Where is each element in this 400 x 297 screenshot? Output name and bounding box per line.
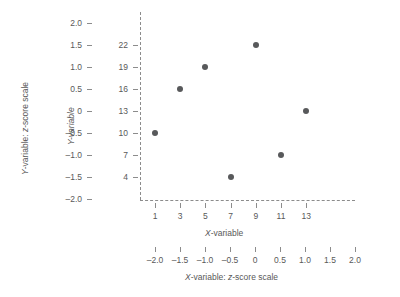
x-primary-tick [281, 203, 282, 208]
x-primary-tick [155, 203, 156, 208]
y-primary-tick [133, 133, 138, 134]
y-primary-tick-label: 16 [88, 84, 128, 94]
y-primary-tick-label: 13 [88, 106, 128, 116]
y-secondary-tick [87, 89, 92, 90]
y-secondary-tick [87, 45, 92, 46]
data-point [228, 174, 234, 180]
y-primary-tick [133, 45, 138, 46]
data-point [303, 108, 309, 114]
scatter-plot-figure: 221916131074 Y-variable 2.01.51.00.50–0.… [0, 0, 400, 297]
y-primary-tick-label: 19 [88, 62, 128, 72]
x-primary-tick [231, 203, 232, 208]
y-secondary-tick-label: –0.5 [42, 128, 82, 138]
x-primary-tick [256, 203, 257, 208]
y-secondary-tick [87, 155, 92, 156]
y-primary-tick-label: 4 [88, 172, 128, 182]
data-point [202, 64, 208, 70]
y-secondary-tick [87, 133, 92, 134]
x-secondary-tick [180, 247, 181, 252]
data-point [278, 152, 284, 158]
y-secondary-tick-label: 2.0 [42, 18, 82, 28]
x-secondary-tick [330, 247, 331, 252]
y-axis-dashed-line [140, 12, 141, 200]
x-axis-dashed-line [140, 200, 355, 201]
data-point [253, 42, 259, 48]
x-primary-tick [180, 203, 181, 208]
plot-area [140, 12, 355, 200]
y-primary-tick [133, 67, 138, 68]
x-primary-tick [306, 203, 307, 208]
y-primary-tick [133, 111, 138, 112]
x-secondary-tick [305, 247, 306, 252]
y-secondary-tick [87, 23, 92, 24]
y-secondary-axis-title: Y-variable: z-score scale [20, 82, 30, 175]
x-primary-tick [205, 203, 206, 208]
x-secondary-tick [205, 247, 206, 252]
y-secondary-tick [87, 111, 92, 112]
y-secondary-tick-label: –1.0 [42, 150, 82, 160]
data-point [177, 86, 183, 92]
y-primary-tick-label: 10 [88, 128, 128, 138]
y-secondary-tick-label: –2.0 [42, 194, 82, 204]
y-primary-tick-label: 7 [88, 150, 128, 160]
x-secondary-tick [280, 247, 281, 252]
y-primary-tick [133, 89, 138, 90]
y-secondary-tick-label: 0 [42, 106, 82, 116]
y-secondary-tick [87, 67, 92, 68]
x-secondary-axis-title: X-variable: z-score scale [185, 272, 278, 282]
y-secondary-tick-label: 1.0 [42, 62, 82, 72]
x-secondary-tick [155, 247, 156, 252]
y-primary-tick-label: 22 [88, 40, 128, 50]
data-point [152, 130, 158, 136]
y-primary-tick [133, 177, 138, 178]
y-primary-tick [133, 155, 138, 156]
x-primary-axis-title: X-variable [205, 228, 243, 238]
y-secondary-tick [87, 199, 92, 200]
x-primary-tick-label: 13 [286, 211, 326, 221]
x-secondary-tick-label: 2.0 [335, 255, 375, 265]
y-secondary-tick-label: 1.5 [42, 40, 82, 50]
y-secondary-tick-label: 0.5 [42, 84, 82, 94]
y-secondary-tick-label: –1.5 [42, 172, 82, 182]
x-secondary-tick [255, 247, 256, 252]
x-secondary-tick [355, 247, 356, 252]
y-secondary-tick [87, 177, 92, 178]
x-secondary-tick [230, 247, 231, 252]
